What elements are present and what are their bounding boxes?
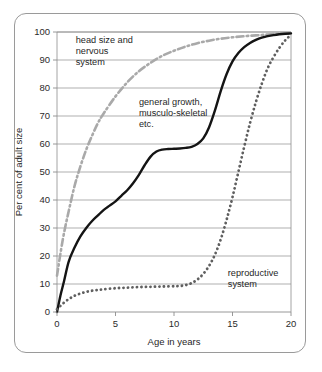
general-growth-label: general growth,musculo-skeletaletc. — [139, 97, 207, 129]
xtick-label-20: 20 — [286, 318, 297, 329]
reproductive-label: reproductivesystem — [228, 268, 279, 289]
y-axis-title: Per cent of adult size — [13, 128, 24, 217]
ytick-label-60: 60 — [39, 138, 50, 149]
series-path-0 — [57, 33, 291, 275]
gridlines-group — [57, 32, 291, 284]
neural-curve-label-line-1: nervous — [76, 46, 109, 56]
general-growth-label-line-2: etc. — [139, 119, 154, 129]
ytick-label-30: 30 — [39, 222, 50, 233]
ytick-label-10: 10 — [39, 278, 50, 289]
growth-curves-chart: 05101520 0102030405060708090100 head siz… — [0, 0, 322, 372]
reproductive-label-line-0: reproductive — [228, 268, 279, 278]
neural-curve-label: head size andnervoussystem — [76, 35, 133, 67]
x-axis-ticks: 05101520 — [54, 312, 296, 329]
ytick-label-100: 100 — [34, 26, 50, 37]
ytick-label-20: 20 — [39, 250, 50, 261]
xtick-label-15: 15 — [227, 318, 238, 329]
xtick-label-0: 0 — [54, 318, 59, 329]
xtick-label-5: 5 — [113, 318, 118, 329]
neural-curve-label-line-2: system — [76, 57, 105, 67]
ytick-label-40: 40 — [39, 194, 50, 205]
axis-titles-group: Age in yearsPer cent of adult size — [13, 128, 201, 347]
reproductive-label-line-1: system — [228, 279, 257, 289]
ytick-label-50: 50 — [39, 166, 50, 177]
general-growth-label-line-1: musculo-skeletal — [139, 108, 207, 118]
annotations-group: head size andnervoussystemgeneral growth… — [76, 35, 279, 288]
neural-curve-label-line-0: head size and — [76, 35, 133, 45]
ytick-label-90: 90 — [39, 54, 50, 65]
y-axis-ticks: 0102030405060708090100 — [34, 26, 57, 317]
figure-container: 05101520 0102030405060708090100 head siz… — [0, 0, 322, 372]
general-growth-label-line-0: general growth, — [139, 97, 202, 107]
ytick-label-80: 80 — [39, 82, 50, 93]
ytick-label-0: 0 — [45, 306, 50, 317]
ytick-label-70: 70 — [39, 110, 50, 121]
x-axis-title: Age in years — [148, 336, 201, 347]
xtick-label-10: 10 — [169, 318, 180, 329]
